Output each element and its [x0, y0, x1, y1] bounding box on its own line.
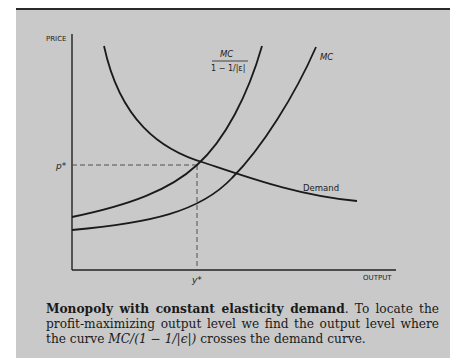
markup-label-numerator: MC: [220, 49, 233, 59]
caption-formula: MC/(1 − 1/|ϵ|): [108, 332, 196, 346]
y-star-label: y*: [191, 275, 202, 285]
y-axis-label: PRICE: [46, 35, 66, 43]
mc-label: MC: [320, 52, 333, 62]
demand-label: Demand: [303, 183, 339, 193]
mc-curve: [72, 47, 316, 230]
x-axis-label: OUTPUT: [363, 274, 392, 282]
p-star-label: p*: [55, 161, 67, 171]
caption-text-2: crosses the demand curve.: [196, 332, 365, 346]
figure-caption: Monopoly with constant elasticity demand…: [46, 302, 439, 347]
caption-title: Monopoly with constant elasticity demand: [46, 302, 345, 316]
markup-label-denominator: 1 − 1/|ε|: [211, 64, 245, 73]
